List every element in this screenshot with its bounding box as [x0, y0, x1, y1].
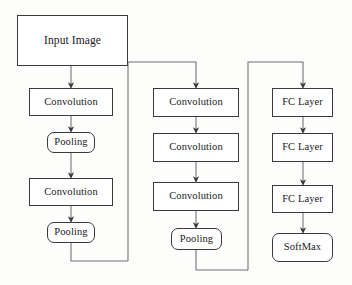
- node-label: FC Layer: [282, 142, 323, 153]
- node-label: Input Image: [44, 34, 101, 46]
- diagram-canvas: Input Image Convolution Pooling Convolut…: [0, 0, 352, 285]
- node-convolution-2[interactable]: Convolution: [29, 178, 113, 206]
- node-softmax[interactable]: SoftMax: [272, 233, 333, 262]
- node-label: Pooling: [54, 227, 87, 238]
- node-label: Convolution: [169, 142, 223, 153]
- node-fc-layer-1[interactable]: FC Layer: [272, 88, 333, 117]
- node-pooling-2[interactable]: Pooling: [47, 222, 95, 243]
- node-label: FC Layer: [282, 193, 323, 204]
- node-label: SoftMax: [284, 242, 321, 253]
- edge-pool2-exit: [71, 243, 128, 261]
- node-label: Convolution: [44, 186, 98, 197]
- node-label: Convolution: [169, 191, 223, 202]
- node-label: Convolution: [44, 96, 98, 107]
- node-pooling-1[interactable]: Pooling: [47, 132, 95, 153]
- node-convolution-3[interactable]: Convolution: [153, 88, 239, 117]
- node-label: Convolution: [169, 97, 223, 108]
- node-fc-layer-3[interactable]: FC Layer: [272, 185, 333, 213]
- edge-pool3-exit: [196, 250, 248, 270]
- node-pooling-3[interactable]: Pooling: [171, 228, 222, 250]
- node-convolution-5[interactable]: Convolution: [153, 182, 239, 211]
- node-fc-layer-2[interactable]: FC Layer: [272, 133, 333, 162]
- node-label: Pooling: [54, 137, 87, 148]
- node-input-image[interactable]: Input Image: [17, 15, 128, 66]
- node-label: Pooling: [180, 233, 213, 244]
- node-label: FC Layer: [282, 97, 323, 108]
- node-convolution-1[interactable]: Convolution: [29, 88, 113, 116]
- node-convolution-4[interactable]: Convolution: [153, 133, 239, 162]
